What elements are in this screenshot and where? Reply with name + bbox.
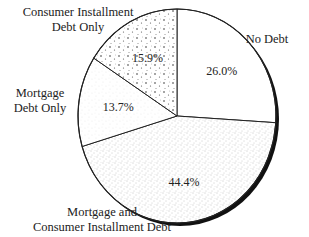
category-label-mortgage-debt-only: MortgageDebt Only bbox=[14, 86, 67, 115]
category-label-consumer-installment-debt-only: Consumer InstallmentDebt Only bbox=[23, 5, 134, 34]
slice-percent-label: 13.7% bbox=[103, 100, 134, 114]
pie-chart: 26.0%44.4%13.7%15.9%No DebtMortgage andC… bbox=[0, 0, 309, 237]
slice-percent-label: 44.4% bbox=[168, 175, 199, 189]
slice-percent-label: 15.9% bbox=[132, 51, 163, 65]
category-label-no-debt: No Debt bbox=[246, 32, 289, 46]
slice-percent-label: 26.0% bbox=[206, 64, 237, 78]
